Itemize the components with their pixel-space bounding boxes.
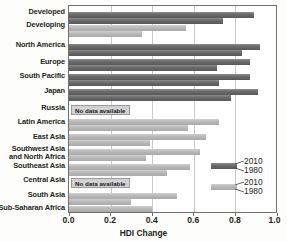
bar-latin-america-1980 [69, 125, 188, 131]
category-label-developed: Developed [29, 8, 65, 16]
legend-leader-line-1980-light [235, 189, 244, 193]
bar-southwest-asia-north-africa-1980 [69, 155, 146, 161]
legend-developing: 2010 1980 [211, 179, 275, 199]
category-label-russia: Russia [41, 104, 65, 112]
x-axis-title: HDI Change [0, 228, 287, 238]
bar-developing-1980 [69, 31, 142, 37]
legend-label-1980-dark: 1980 [244, 166, 263, 175]
category-label-southeast-asia: Southeast Asia [13, 162, 65, 170]
xtick-label-5: 1.0 [269, 215, 281, 225]
legend-swatch-light [211, 184, 237, 190]
category-label-east-asia: East Asia [33, 133, 65, 141]
bar-south-asia-1980 [69, 199, 131, 205]
no-data-badge-russia: No data available [71, 105, 130, 115]
legend-leader-line-2010-light [235, 182, 244, 186]
hdi-change-bar-chart: Developed Developing North America Europ… [0, 0, 287, 242]
no-data-badge-central-asia: No data available [71, 178, 130, 188]
bar-sub-saharan-africa-1980 [69, 212, 129, 213]
bar-europe-1980 [69, 65, 217, 71]
gridline-0.6 [194, 6, 195, 212]
legend-swatch-dark [211, 163, 237, 169]
category-label-latin-america: Latin America [18, 118, 65, 126]
xtick-label-2: 0.4 [146, 215, 158, 225]
plot-area: No data available No data available 2010… [68, 5, 277, 213]
category-axis-labels: Developed Developing North America Europ… [0, 0, 67, 213]
category-label-north-america: North America [16, 41, 65, 49]
category-label-europe: Europe [40, 58, 65, 66]
category-label-japan: Japan [44, 87, 65, 95]
category-label-southwest-asia-north-africa: Southwest Asia and North Africa [1, 145, 65, 161]
category-label-developing: Developing [26, 21, 65, 29]
legend-developed: 2010 1980 [211, 158, 275, 178]
bar-southeast-asia-1980 [69, 170, 167, 176]
bar-north-america-1980 [69, 50, 242, 56]
legend-label-1980-light: 1980 [244, 187, 263, 196]
category-label-south-asia: South Asia [28, 191, 65, 199]
xtick-label-1: 0.2 [104, 215, 116, 225]
xtick-label-0: 0.0 [63, 215, 75, 225]
category-label-sub-saharan-africa: Sub-Saharan Africa [0, 204, 65, 212]
bar-developed-1980 [69, 18, 223, 24]
xtick-label-3: 0.6 [187, 215, 199, 225]
category-label-central-asia: Central Asia [23, 176, 65, 184]
bar-japan-1980 [69, 95, 231, 101]
legend-leader-line-1980-dark [235, 168, 244, 172]
legend-leader-line-2010-dark [235, 161, 244, 165]
category-label-south-pacific: South Pacific [19, 72, 65, 80]
gridline-0.4 [152, 6, 153, 212]
xtick-label-4: 0.8 [229, 215, 241, 225]
bar-south-pacific-1980 [69, 80, 219, 86]
bar-east-asia-1980 [69, 140, 150, 146]
